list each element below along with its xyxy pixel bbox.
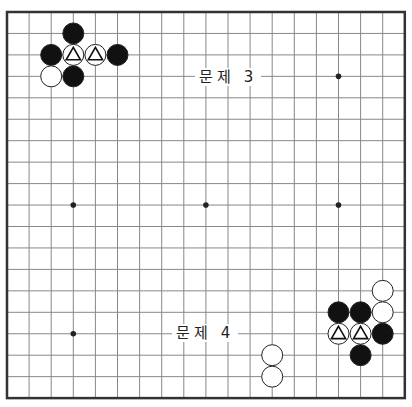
black-stone [350, 302, 371, 323]
black-stone [63, 66, 84, 87]
black-stone [350, 345, 371, 366]
black-stone [41, 44, 62, 65]
hoshi-point [71, 331, 77, 337]
black-stone [107, 44, 128, 65]
hoshi-point [336, 202, 342, 208]
white-stone [372, 302, 393, 323]
problem-4-label: 문제 4 [172, 324, 238, 342]
hoshi-point [71, 202, 77, 208]
hoshi-point [336, 74, 342, 80]
white-stone [372, 280, 393, 301]
black-stone [328, 302, 349, 323]
problem-3-label: 문제 3 [195, 68, 261, 86]
black-stone [372, 323, 393, 344]
white-stone [41, 66, 62, 87]
black-stone [63, 23, 84, 44]
hoshi-point [203, 202, 209, 208]
white-stone [262, 345, 283, 366]
go-board [0, 0, 412, 407]
white-stone [262, 366, 283, 387]
